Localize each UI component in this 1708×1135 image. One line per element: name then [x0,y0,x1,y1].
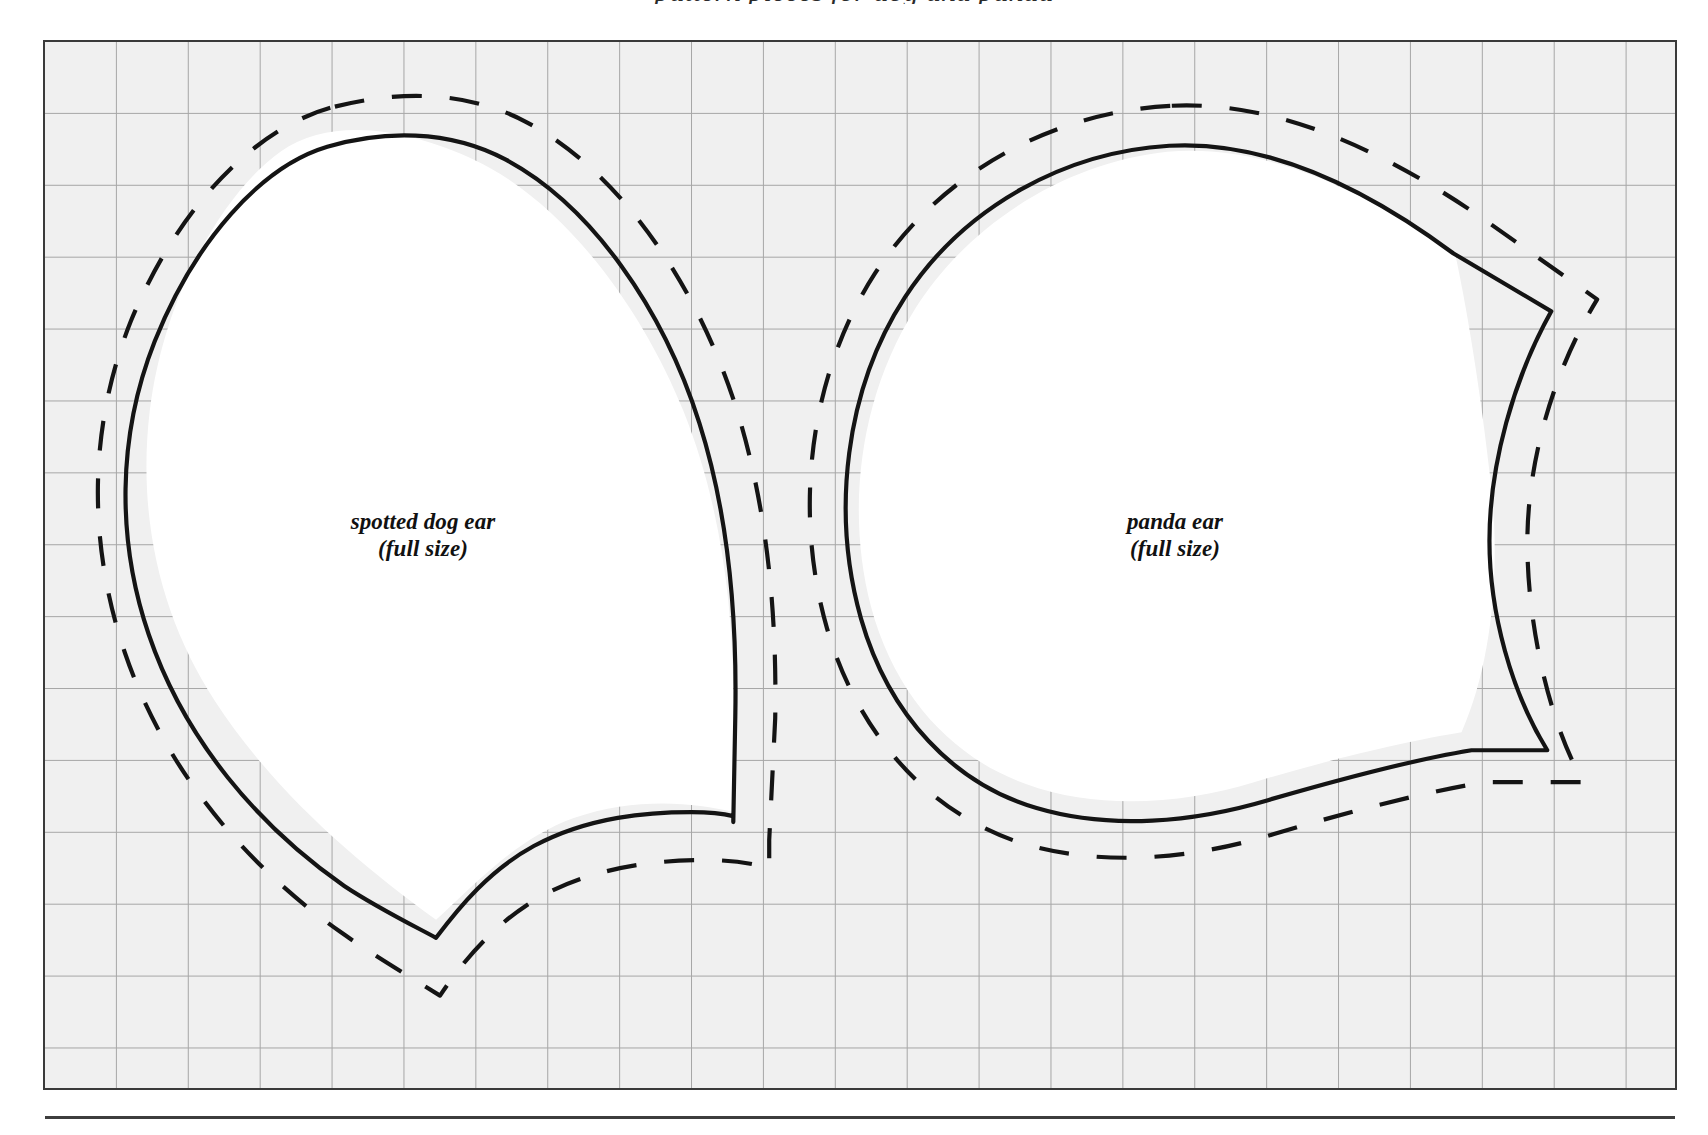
label-spotted-dog-ear: spotted dog ear (full size) [303,508,543,562]
panda-ear-fill [859,151,1495,802]
pattern-shapes-svg [45,42,1675,1089]
label-panda-ear-line2: (full size) [1055,535,1295,562]
label-panda-ear-line1: panda ear [1055,508,1295,535]
footer-rule [45,1116,1675,1119]
piece-panda-ear [810,105,1597,857]
pattern-sheet-page: pattern pieces for dog and panda [0,0,1708,1135]
label-spotted-dog-ear-line2: (full size) [303,535,543,562]
label-spotted-dog-ear-line1: spotted dog ear [303,508,543,535]
pattern-panel: spotted dog ear (full size) panda ear (f… [43,40,1677,1090]
label-panda-ear: panda ear (full size) [1055,508,1295,562]
page-title-cropped: pattern pieces for dog and panda [0,0,1708,4]
